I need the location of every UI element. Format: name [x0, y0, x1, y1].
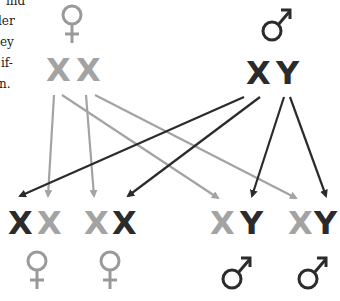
child4-chromosome-y-father: Y	[314, 207, 337, 239]
child3-chromosome-x-mother: X	[210, 207, 235, 239]
child1-chromosome-x-father: X	[8, 207, 33, 239]
child1-chromosome-x-mother: X	[37, 207, 62, 239]
arrow-mother-to-child2	[86, 95, 94, 196]
father-chromosome-x: X	[246, 57, 271, 89]
mother-chromosome-x2: X	[76, 54, 101, 86]
inheritance-arrows	[0, 0, 340, 301]
female-symbol-icon	[58, 3, 86, 45]
arrow-father-to-child4	[290, 97, 326, 196]
male-symbol-icon	[296, 254, 330, 292]
mother-chromosome-x1: X	[46, 54, 71, 86]
male-symbol-icon	[260, 6, 294, 44]
arrow-father-to-child3	[252, 97, 284, 196]
child4-chromosome-x-mother: X	[288, 207, 313, 239]
male-symbol-icon	[220, 254, 254, 292]
female-symbol-icon	[96, 249, 124, 291]
child2-chromosome-x-father: X	[112, 207, 137, 239]
child2-chromosome-x-mother: X	[84, 207, 109, 239]
female-symbol-icon	[23, 249, 51, 291]
father-chromosome-y: Y	[276, 57, 299, 89]
child3-chromosome-y-father: Y	[240, 207, 263, 239]
